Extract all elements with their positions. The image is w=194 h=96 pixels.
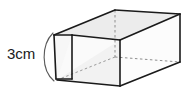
rectangular-prism-figure: 3cm [0, 0, 194, 96]
height-dimension-label: 3cm [7, 45, 35, 62]
height-brace-arc [44, 33, 54, 81]
prism-drawing: 3cm [0, 0, 194, 96]
